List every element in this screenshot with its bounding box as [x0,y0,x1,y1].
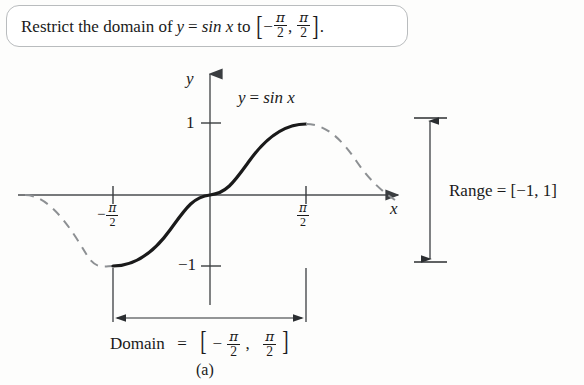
domain-prefix: Domain [110,334,165,353]
curve-label-function: sin x [263,88,295,107]
denominator-two: 2 [107,216,117,228]
domain-bracket-open: [ [201,329,207,355]
domain-fraction-high: π 2 [263,330,276,359]
pi-symbol: π [263,330,276,344]
denominator-two: 2 [264,345,275,359]
pi-symbol: π [227,330,240,344]
denominator-two: 2 [228,345,239,359]
y-axis-label: y [186,70,194,87]
pi-symbol: π [106,202,118,214]
domain-bracket-close: ] [283,329,289,355]
x-tick-label-negative-pi-over-two: − π 2 [97,203,119,228]
sine-curve-dashed-right [306,124,395,200]
sine-restricted-domain-figure: Restrict the domain of y = sin x to [ − … [0,0,584,385]
y-tick-label-one: 1 [186,114,195,131]
curve-equation-label: y=sin x [238,89,295,106]
range-annotation-label: Range = [−1, 1] [449,182,557,199]
domain-annotation-label: Domain = [ − π 2 , π 2 ] [110,328,290,359]
figure-part-label: (a) [196,362,214,378]
domain-negative-sign: − [212,334,222,353]
x-axis-label: x [390,200,398,217]
x-tick-label-pi-over-two: π 2 [296,203,310,228]
denominator-two: 2 [298,216,308,228]
y-tick-label-negative-one: −1 [178,256,196,273]
curve-label-y: y [238,88,246,107]
fraction-pi-over-two: π 2 [297,202,309,227]
domain-fraction-low: π 2 [227,330,240,359]
domain-comma: , [245,334,249,353]
domain-equals: = [177,334,187,353]
fraction-pi-over-two: π 2 [106,202,118,227]
curve-label-equals: = [250,88,260,107]
pi-symbol: π [297,202,309,214]
negative-sign: − [97,206,105,222]
